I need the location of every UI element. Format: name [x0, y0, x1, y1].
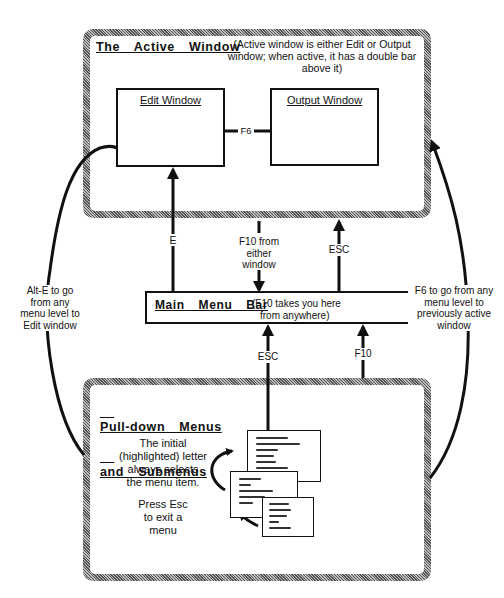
f6-switch-label: F6: [238, 125, 254, 137]
edit-window-label: Edit Window: [118, 94, 223, 106]
f6-line1: F6 to go from any: [408, 285, 500, 297]
pulldown-note1-line2: (highlighted) letter: [113, 450, 213, 463]
pulldown-note-highlight: The initial (highlighted) letter always …: [113, 437, 213, 489]
main-menu-bar-box: Main Menu Bar (F10 takes you here from a…: [145, 291, 423, 324]
active-window-note-line3: above it): [222, 62, 422, 74]
f6-previous-window-label: F6 to go from any menu level to previous…: [408, 285, 500, 331]
main-menu-bar-note-line1: (F10 takes you here: [252, 298, 341, 310]
output-window-label: Output Window: [272, 94, 377, 106]
active-window-note-line1: (Active window is either Edit or Output: [222, 38, 422, 50]
output-window-box: Output Window: [270, 88, 379, 166]
pulldown-note-esc: Press Esc to exit a menu: [133, 498, 193, 537]
main-menu-bar-note: (F10 takes you here from anywhere): [252, 298, 341, 321]
alt-e-line1: Alt-E to go: [5, 285, 95, 297]
alt-e-line4: Edit window: [5, 320, 95, 332]
pulldown-note1-line4: the menu item.: [113, 476, 213, 489]
edit-window-box: Edit Window: [116, 88, 225, 167]
pulldown-note2-line2: to exit a: [133, 511, 193, 524]
f10-from-window-label: F10 from either window: [234, 236, 284, 271]
alt-e-label: Alt-E to go from any menu level to Edit …: [5, 285, 95, 331]
e-key-label: E: [167, 234, 179, 246]
f10-from-window-line3: window: [234, 259, 284, 271]
pulldown-title-line1: Pull-down Menus: [100, 420, 222, 435]
esc-to-menubar-label: ESC: [256, 351, 280, 363]
menu-illustration-3: [262, 497, 314, 537]
active-window-note: (Active window is either Edit or Output …: [222, 38, 422, 74]
f10-from-window-line2: either: [234, 248, 284, 260]
pulldown-note2-line3: menu: [133, 524, 193, 537]
active-window-title: The Active Window: [96, 40, 240, 54]
f10-from-window-line1: F10 from: [234, 236, 284, 248]
f6-line4: window: [408, 320, 500, 332]
alt-e-line3: menu level to: [5, 308, 95, 320]
pulldown-note2-line1: Press Esc: [133, 498, 193, 511]
alt-e-line2: from any: [5, 297, 95, 309]
esc-to-window-label: ESC: [327, 244, 351, 256]
main-menu-bar-note-line2: from anywhere): [252, 310, 341, 322]
f6-line2: menu level to: [408, 297, 500, 309]
pulldown-note1-line1: The initial: [113, 437, 213, 450]
pulldown-note1-line3: always selects: [113, 463, 213, 476]
active-window-note-line2: window; when active, it has a double bar: [222, 50, 422, 62]
f10-to-menubar-label: F10: [352, 348, 374, 360]
f6-line3: previously active: [408, 308, 500, 320]
